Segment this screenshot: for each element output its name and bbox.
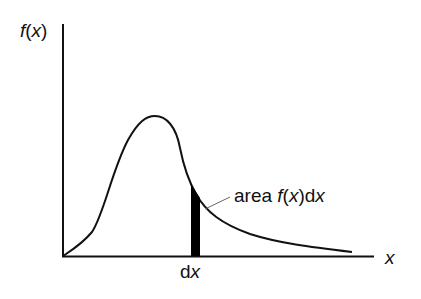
annotation-leader-line <box>205 197 230 209</box>
annotation-prefix: area <box>234 185 277 206</box>
dx-label: dx <box>180 262 200 281</box>
area-annotation: area f(x)dx <box>234 186 325 205</box>
dx-label-d: d <box>180 261 191 282</box>
y-label-close-paren: ) <box>41 20 47 41</box>
y-label-var: x <box>32 20 42 41</box>
diagram-canvas <box>0 0 421 299</box>
annotation-var: x <box>289 185 299 206</box>
area-strip <box>191 184 200 256</box>
annotation-var2: x <box>315 185 325 206</box>
dx-label-var: x <box>191 261 201 282</box>
y-axis-label: f(x) <box>20 21 47 40</box>
x-axis-label: x <box>385 248 395 267</box>
annotation-d: d <box>305 185 316 206</box>
pdf-diagram: f(x) x dx area f(x)dx <box>0 0 421 299</box>
